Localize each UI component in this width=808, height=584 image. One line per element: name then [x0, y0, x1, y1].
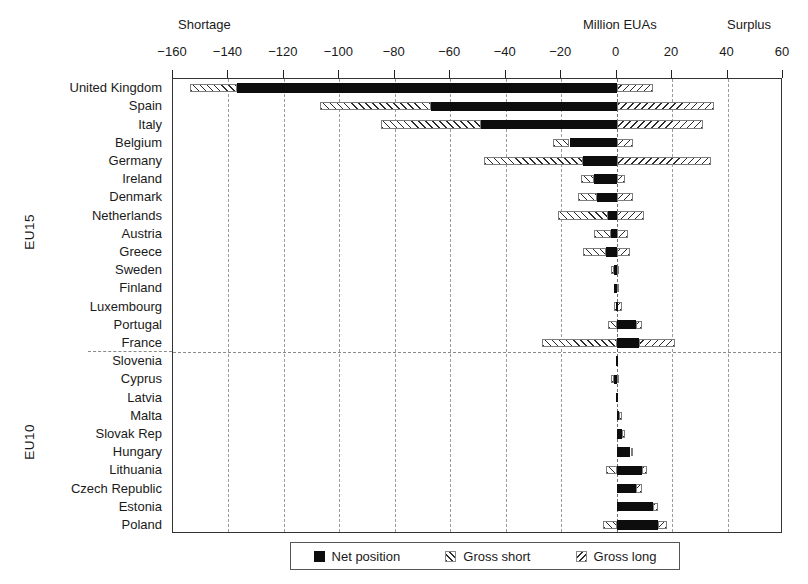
- net-position-bar: [617, 320, 636, 330]
- legend-label: Gross long: [594, 549, 657, 564]
- forwardslash-hatch-swatch: [576, 551, 587, 562]
- category-label: Cyprus: [121, 371, 162, 386]
- legend-item-short: Gross short: [445, 549, 530, 564]
- category-label: Lithuania: [109, 462, 162, 477]
- category-label: Sweden: [115, 262, 162, 277]
- bar-series-container: [173, 79, 781, 532]
- shortage-annotation: Shortage: [178, 17, 231, 32]
- legend-label: Gross short: [463, 549, 530, 564]
- gross-long-bar: [617, 157, 711, 165]
- category-label: Hungary: [113, 444, 162, 459]
- x-tick-label: −100: [324, 44, 353, 59]
- gross-long-bar: [617, 120, 703, 128]
- category-label: Slovenia: [112, 353, 162, 368]
- category-label: Austria: [122, 225, 162, 240]
- x-tick-label: −160: [157, 44, 186, 59]
- group-divider-extension: [88, 351, 172, 352]
- legend-label: Net position: [332, 549, 401, 564]
- x-tick-label: 60: [775, 44, 789, 59]
- chart-legend: Net positionGross shortGross long: [290, 542, 680, 570]
- gross-long-bar: [653, 503, 659, 511]
- net-position-bar: [614, 265, 617, 275]
- x-tick-mark: [782, 70, 783, 78]
- gross-long-bar: [631, 448, 634, 456]
- category-label: Spain: [129, 98, 162, 113]
- gross-long-bar: [619, 412, 622, 420]
- category-label: Netherlands: [92, 207, 162, 222]
- x-tick-label: −20: [549, 44, 571, 59]
- gross-short-bar: [603, 521, 617, 529]
- gross-long-bar: [636, 321, 642, 329]
- net-position-bar: [617, 338, 639, 348]
- gross-short-bar: [606, 466, 617, 474]
- net-position-bar: [616, 356, 618, 366]
- gross-short-bar: [190, 84, 237, 92]
- x-tick-mark: [449, 70, 450, 78]
- gross-short-bar: [594, 230, 611, 238]
- gross-short-bar: [581, 175, 595, 183]
- gross-long-bar: [636, 484, 642, 492]
- net-position-bar: [606, 247, 617, 257]
- bar-chart: Shortage Million EUAs Surplus −160−140−1…: [0, 0, 808, 584]
- gross-short-bar: [583, 248, 605, 256]
- net-position-bar: [431, 102, 617, 112]
- unit-annotation: Million EUAs: [583, 17, 657, 32]
- net-position-bar: [616, 302, 618, 312]
- gross-long-bar: [617, 139, 634, 147]
- net-position-bar: [237, 83, 617, 93]
- gross-short-bar: [553, 139, 570, 147]
- gross-long-bar: [617, 175, 625, 183]
- solid-square-swatch: [314, 551, 325, 562]
- x-tick-mark: [671, 70, 672, 78]
- gross-long-bar: [617, 193, 634, 201]
- x-tick-label: 0: [612, 44, 619, 59]
- category-label: France: [122, 334, 162, 349]
- net-position-bar: [608, 211, 616, 221]
- net-position-bar: [617, 502, 653, 512]
- x-tick-label: 40: [719, 44, 733, 59]
- gross-long-bar: [642, 466, 648, 474]
- category-axis-labels: United KingdomSpainItalyBelgiumGermanyIr…: [0, 78, 168, 533]
- category-label: Finland: [119, 280, 162, 295]
- category-label: Denmark: [109, 189, 162, 204]
- x-tick-label: −60: [438, 44, 460, 59]
- gross-short-bar: [558, 211, 608, 219]
- gross-short-bar: [381, 120, 481, 128]
- category-label: Italy: [138, 116, 162, 131]
- gross-long-bar: [617, 266, 620, 274]
- x-tick-mark: [227, 70, 228, 78]
- gross-long-bar: [617, 211, 645, 219]
- gross-long-bar: [639, 339, 675, 347]
- gross-long-bar: [658, 521, 666, 529]
- legend-item-net: Net position: [314, 549, 401, 564]
- gross-long-bar: [622, 430, 625, 438]
- category-label: Malta: [130, 407, 162, 422]
- gross-long-bar: [617, 230, 628, 238]
- category-label: Latvia: [127, 389, 162, 404]
- gross-long-bar: [617, 102, 714, 110]
- x-tick-mark: [283, 70, 284, 78]
- x-tick-label: −80: [383, 44, 405, 59]
- category-label: Portugal: [114, 316, 162, 331]
- x-tick-label: −40: [494, 44, 516, 59]
- category-label: Greece: [119, 243, 162, 258]
- net-position-bar: [617, 520, 659, 530]
- net-position-bar: [617, 411, 620, 421]
- x-tick-mark: [616, 70, 617, 78]
- x-axis-tick-labels: −160−140−120−100−80−60−40−200204060: [0, 44, 808, 64]
- x-tick-mark: [727, 70, 728, 78]
- category-label: Czech Republic: [71, 480, 162, 495]
- net-position-bar: [597, 193, 616, 203]
- net-position-bar: [583, 156, 616, 166]
- category-label: Germany: [109, 152, 162, 167]
- net-position-bar: [617, 484, 636, 494]
- legend-item-long: Gross long: [576, 549, 657, 564]
- x-tick-mark: [172, 70, 173, 78]
- net-position-bar: [570, 138, 617, 148]
- net-position-bar: [594, 174, 616, 184]
- x-tick-label: −140: [213, 44, 242, 59]
- category-label: Estonia: [119, 498, 162, 513]
- backslash-hatch-swatch: [445, 551, 456, 562]
- category-label: Poland: [122, 516, 162, 531]
- x-tick-mark: [560, 70, 561, 78]
